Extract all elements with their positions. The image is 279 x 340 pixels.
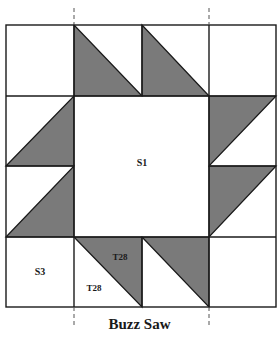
triangle-r1c3 (209, 96, 276, 166)
triangle-r0c2 (142, 25, 209, 96)
triangle-r3c2 (142, 237, 209, 307)
triangle-r0c1 (74, 25, 142, 96)
triangle-r3c1 (74, 237, 142, 307)
triangle-r2c3 (209, 166, 276, 237)
label-t28-dark: T28 (112, 252, 128, 262)
buzz-saw-quilt-block: S1 S3 T28 T28 (0, 0, 279, 340)
label-s1: S1 (137, 157, 148, 168)
label-t28-light: T28 (86, 283, 102, 293)
block-title: Buzz Saw (0, 316, 279, 333)
triangle-r1c0 (6, 96, 74, 166)
triangle-r2c0 (6, 166, 74, 237)
label-s3: S3 (35, 266, 46, 277)
